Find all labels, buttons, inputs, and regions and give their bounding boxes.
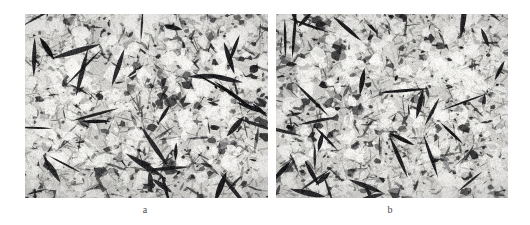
micrograph-image-a bbox=[25, 14, 268, 198]
micrograph-panel-a bbox=[25, 14, 268, 198]
figure-root: a b bbox=[0, 0, 530, 225]
panel-label-a: a bbox=[135, 205, 155, 215]
micrograph-panel-b bbox=[276, 14, 508, 198]
micrograph-image-b bbox=[276, 14, 508, 198]
panel-label-b: b bbox=[380, 205, 400, 215]
